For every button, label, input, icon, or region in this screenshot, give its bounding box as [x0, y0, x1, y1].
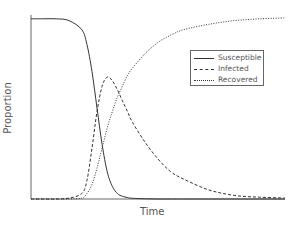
- y-axis-label: Proportion: [2, 78, 13, 138]
- legend-item-susceptible: Susceptible: [191, 53, 263, 63]
- legend-item-recovered: Recovered: [191, 75, 263, 85]
- x-axis-label: Time: [140, 206, 164, 217]
- series-susceptible-line: [31, 19, 285, 199]
- dashed-line-swatch-icon: [194, 69, 214, 70]
- series-layer: [31, 18, 285, 199]
- legend-label: Infected: [218, 64, 249, 74]
- legend-label: Susceptible: [218, 53, 261, 63]
- solid-line-swatch-icon: [194, 58, 214, 59]
- series-recovered-line: [31, 18, 285, 199]
- series-infected-line: [31, 77, 285, 199]
- legend: Susceptible Infected Recovered: [190, 50, 264, 86]
- legend-label: Recovered: [218, 75, 258, 85]
- chart-canvas: [0, 0, 303, 227]
- dotted-line-swatch-icon: [194, 80, 214, 81]
- legend-item-infected: Infected: [191, 64, 263, 74]
